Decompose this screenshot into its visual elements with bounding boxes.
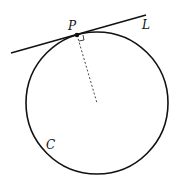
tangent-diagram: P L C [0,0,176,191]
radius-dashed [77,35,97,103]
label-l: L [141,18,150,32]
label-c: C [46,138,55,152]
point-p-dot [75,33,80,38]
right-angle-marker [79,35,84,41]
label-p: P [67,19,77,33]
